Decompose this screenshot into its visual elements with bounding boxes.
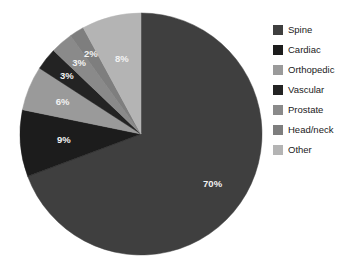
legend-item-spine[interactable]: Spine	[272, 20, 353, 40]
legend-label-spine: Spine	[288, 25, 312, 35]
legend-item-orthopedic[interactable]: Orthopedic	[272, 60, 353, 80]
pie-slice-label-spine: 70%	[203, 178, 223, 189]
legend-swatch-head-neck	[273, 125, 283, 135]
legend-label-cardiac: Cardiac	[288, 45, 321, 55]
legend-item-cardiac[interactable]: Cardiac	[272, 40, 353, 60]
legend-item-head-neck[interactable]: Head/neck	[272, 120, 353, 140]
pie-chart-plot-area: 70%9%6%3%3%2%8%	[0, 0, 272, 262]
pie-slice-label-other: 8%	[115, 53, 129, 64]
legend-swatch-cardiac	[273, 45, 283, 55]
legend-label-vascular: Vascular	[288, 85, 324, 95]
pie-slice-label-vascular: 3%	[60, 70, 74, 81]
pie-slice-label-head-neck: 2%	[84, 48, 98, 59]
chart-legend: SpineCardiacOrthopedicVascularProstateHe…	[272, 20, 353, 160]
legend-item-other[interactable]: Other	[272, 140, 353, 160]
legend-label-prostate: Prostate	[288, 105, 323, 115]
pie-slice-label-cardiac: 9%	[57, 134, 71, 145]
pie-slice-label-orthopedic: 6%	[56, 96, 70, 107]
legend-label-orthopedic: Orthopedic	[288, 65, 334, 75]
legend-item-vascular[interactable]: Vascular	[272, 80, 353, 100]
pie-chart-svg: 70%9%6%3%3%2%8%	[0, 0, 272, 262]
legend-item-prostate[interactable]: Prostate	[272, 100, 353, 120]
legend-swatch-orthopedic	[273, 65, 283, 75]
legend-swatch-vascular	[273, 85, 283, 95]
legend-swatch-prostate	[273, 105, 283, 115]
legend-label-head-neck: Head/neck	[288, 125, 333, 135]
legend-swatch-other	[273, 145, 283, 155]
legend-swatch-spine	[273, 25, 283, 35]
pie-chart-figure: 70%9%6%3%3%2%8% SpineCardiacOrthopedicVa…	[0, 0, 353, 270]
legend-label-other: Other	[288, 145, 312, 155]
